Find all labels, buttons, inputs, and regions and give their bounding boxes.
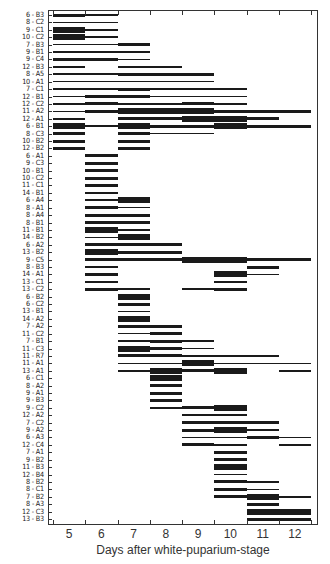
timeline-segment [279,370,311,372]
timeline-segment [182,125,214,128]
timeline-segment [150,332,182,335]
timeline-segment [279,444,311,446]
x-tick-label: 6 [91,527,111,541]
timeline-segment [118,325,183,328]
y-tick [48,334,52,335]
y-tick [48,341,52,342]
y-tick [48,267,52,268]
timeline-segment [214,427,246,433]
timeline-segment [150,347,182,350]
y-tick [48,415,52,416]
timeline-segment [85,192,117,194]
timeline-segment [118,294,150,300]
y-tick [48,200,52,201]
y-tick [48,245,52,246]
timeline-segment [118,251,183,254]
timeline-segment [85,221,150,224]
timeline-segment [53,140,85,143]
y-tick [48,460,52,461]
timeline-segment [118,197,150,203]
y-tick [48,52,52,53]
x-tick [311,520,312,525]
timeline-segment [118,123,150,129]
timeline-segment [85,214,150,217]
y-tick [48,163,52,164]
y-tick [48,148,52,149]
timeline-segment [150,399,182,402]
timeline-segment [85,95,150,98]
y-tick [48,45,52,46]
y-tick [48,482,52,483]
timeline-segment [182,360,214,366]
timeline-segment [247,429,279,431]
timeline-segment [118,229,150,231]
x-tick [247,520,248,525]
timeline-segment [182,102,214,105]
y-tick [48,230,52,231]
y-tick [48,126,52,127]
x-tick [214,520,215,525]
timeline-segment [53,111,85,113]
y-tick [48,208,52,209]
timeline-segment [118,346,150,352]
timeline-segment [118,66,183,68]
timeline-segment [85,258,182,261]
timeline-segment [247,117,279,120]
timeline-segment [182,355,279,357]
timeline-segment [118,117,150,120]
timeline-segment [118,132,150,135]
timeline-segment [182,340,214,342]
timeline-segment [214,368,246,374]
y-tick [48,393,52,394]
timeline-segment [150,133,215,135]
timeline-segment [118,147,150,150]
y-tick [48,437,52,438]
timeline-segment [118,234,150,240]
timeline-segment [214,458,246,461]
timeline-segment [118,288,150,290]
y-tick [48,223,52,224]
timeline-segment [150,340,182,343]
timeline-segment [53,88,118,90]
timeline-segment [247,503,279,506]
y-tick [48,430,52,431]
x-axis-title: Days after white-puparium-stage [48,543,318,557]
x-tick [53,520,54,525]
y-tick [48,252,52,253]
y-tick [48,104,52,105]
y-tick [48,445,52,446]
y-tick [48,37,52,38]
x-tick [311,10,312,15]
y-tick [48,15,52,16]
timeline-segment [85,154,117,157]
x-tick [118,10,119,15]
y-tick [48,371,52,372]
timeline-segment [182,116,247,122]
timeline-segment [85,227,117,233]
y-tick [48,489,52,490]
timeline-segment [279,496,311,498]
y-tick [48,475,52,476]
timeline-segment [53,132,85,135]
timeline-segment [85,243,182,246]
timeline-segment [247,274,279,276]
timeline-segment [118,88,150,91]
y-tick [48,111,52,112]
y-tick [48,67,52,68]
timeline-segment [85,125,117,127]
y-tick [48,141,52,142]
y-tick [48,185,52,186]
timeline-segment [214,480,246,483]
timeline-segment [182,429,214,432]
x-tick [53,10,54,15]
timeline-segment [118,303,150,306]
x-tick [85,10,86,15]
x-tick [279,520,280,525]
timeline-segment [214,363,311,365]
timeline-segment [118,354,183,357]
x-tick-label: 11 [253,527,273,541]
y-tick [48,452,52,453]
y-tick [48,356,52,357]
x-tick [150,520,151,525]
x-tick-label: 12 [285,527,305,541]
